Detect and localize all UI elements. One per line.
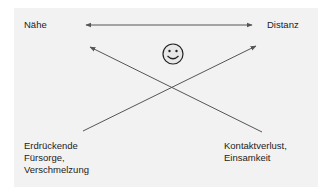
label-line: Kontaktverlust, (224, 140, 287, 152)
label-erdrueckende-fuersorge: Erdrückende Fürsorge, Verschmelzung (24, 140, 89, 176)
label-line: Fürsorge, (24, 152, 89, 164)
label-distanz: Distanz (267, 19, 299, 31)
smiley-face-icon (163, 44, 183, 64)
label-line: Verschmelzung (24, 164, 89, 176)
label-kontaktverlust: Kontaktverlust, Einsamkeit (224, 140, 287, 164)
label-line: Einsamkeit (224, 152, 287, 164)
label-line: Erdrückende (24, 140, 89, 152)
label-nahe: Nähe (24, 19, 47, 31)
